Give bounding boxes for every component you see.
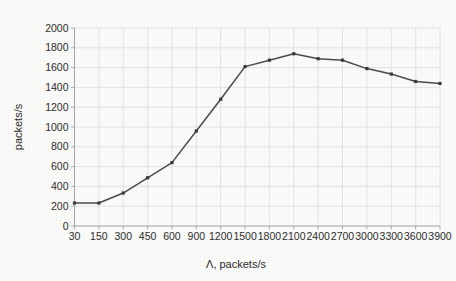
chart-page: 3015030045060090012001500180021002400270… (0, 0, 456, 281)
data-point-marker (365, 67, 368, 70)
data-point-marker (292, 52, 295, 55)
x-tick-label: 3900 (428, 230, 452, 242)
y-tick-label: 1200 (45, 101, 69, 113)
y-tick-labels-group: 0200400600800100012001400160018002000 (45, 22, 69, 232)
x-tick-label: 150 (90, 230, 108, 242)
y-tick-label: 200 (51, 200, 69, 212)
data-point-marker (97, 201, 100, 204)
y-tick-label: 1400 (45, 81, 69, 93)
data-markers-group (73, 52, 442, 204)
data-point-marker (341, 59, 344, 62)
x-tick-label: 450 (139, 230, 157, 242)
data-point-marker (146, 176, 149, 179)
x-tick-label: 1500 (233, 230, 257, 242)
chart-svg: 3015030045060090012001500180021002400270… (0, 0, 456, 281)
y-tick-label: 400 (51, 180, 69, 192)
x-tick-label: 1200 (209, 230, 233, 242)
y-tick-group (71, 28, 75, 226)
x-tick-label: 600 (163, 230, 181, 242)
x-tick-label: 900 (188, 230, 206, 242)
y-tick-label: 800 (51, 140, 69, 152)
y-tick-label: 1600 (45, 61, 69, 73)
data-point-marker (438, 82, 441, 85)
data-point-marker (122, 191, 125, 194)
x-tick-label: 2700 (331, 230, 355, 242)
x-axis-title: Λ, packets/s (206, 258, 266, 270)
data-point-marker (195, 129, 198, 132)
y-tick-label: 1000 (45, 121, 69, 133)
x-tick-label: 300 (114, 230, 132, 242)
x-tick-group (75, 226, 441, 230)
y-tick-label: 600 (51, 160, 69, 172)
x-tick-labels-group: 3015030045060090012001500180021002400270… (69, 230, 452, 242)
data-point-marker (170, 161, 173, 164)
data-point-marker (390, 72, 393, 75)
gridlines-group (75, 28, 441, 226)
data-point-marker (243, 65, 246, 68)
y-axis-title: packets/s (12, 103, 24, 150)
x-tick-label: 3000 (355, 230, 379, 242)
x-tick-label: 1800 (258, 230, 282, 242)
data-point-marker (268, 59, 271, 62)
x-tick-label: 2100 (282, 230, 306, 242)
x-tick-label: 3300 (380, 230, 404, 242)
data-point-marker (219, 98, 222, 101)
y-tick-label: 2000 (45, 22, 69, 34)
x-tick-label: 2400 (306, 230, 330, 242)
data-point-marker (317, 57, 320, 60)
x-tick-label: 3600 (404, 230, 428, 242)
data-point-marker (73, 201, 76, 204)
data-line-throughput (75, 54, 441, 203)
y-tick-label: 0 (63, 220, 69, 232)
y-tick-label: 1800 (45, 41, 69, 53)
data-point-marker (414, 80, 417, 83)
x-tick-label: 30 (69, 230, 81, 242)
line-chart-figure: 3015030045060090012001500180021002400270… (0, 0, 456, 281)
